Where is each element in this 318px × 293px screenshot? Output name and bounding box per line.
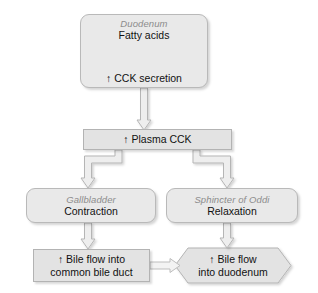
duodenum-stimulus-label: Fatty acids xyxy=(119,29,170,42)
plasma-cck-label: ↑ Plasma CCK xyxy=(123,133,191,146)
sphincter-action-label: Relaxation xyxy=(207,205,257,218)
duodenum-flow-line2: into duodenum xyxy=(198,266,267,279)
duodenum-organ-label: Duodenum xyxy=(120,18,167,29)
gallbladder-action-label: Contraction xyxy=(64,205,118,218)
bile-duct-flow-line2: common bile duct xyxy=(50,266,132,279)
node-duodenum: Duodenum Fatty acids ↑ CCK secretion xyxy=(80,14,208,88)
arrow-gallbladder-to-bile-duct xyxy=(81,223,95,249)
arrow-plasma-to-sphincter xyxy=(193,150,234,188)
node-bile-flow-common-bile-duct: ↑ Bile flow into common bile duct xyxy=(33,249,150,282)
node-plasma-cck: ↑ Plasma CCK xyxy=(83,129,232,150)
gallbladder-organ-label: Gallbladder xyxy=(66,194,116,205)
arrow-duodenum-to-plasma xyxy=(137,88,151,130)
arrow-plasma-to-gallbladder xyxy=(81,150,122,188)
node-sphincter-of-oddi: Sphincter of Oddi Relaxation xyxy=(166,188,298,223)
node-gallbladder: Gallbladder Contraction xyxy=(26,188,156,223)
node-bile-flow-into-duodenum: ↑ Bile flow into duodenum xyxy=(175,248,291,283)
bile-duct-flow-line1: ↑ Bile flow into xyxy=(58,253,125,266)
arrow-sphincter-to-duodenum-flow xyxy=(220,223,234,248)
sphincter-organ-label: Sphincter of Oddi xyxy=(194,194,269,205)
flowchart-diagram: Duodenum Fatty acids ↑ CCK secretion ↑ P… xyxy=(0,0,318,293)
duodenum-response-label: ↑ CCK secretion xyxy=(106,72,182,85)
duodenum-flow-line1: ↑ Bile flow xyxy=(209,253,256,266)
